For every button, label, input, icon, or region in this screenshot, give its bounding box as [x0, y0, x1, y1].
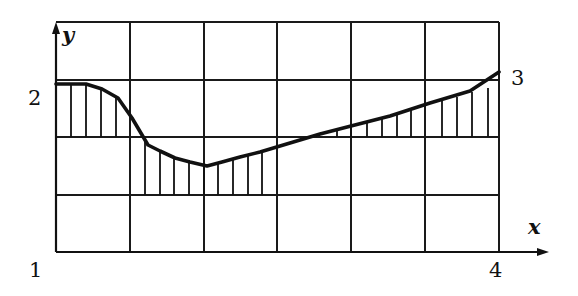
x-axis-label: x	[528, 214, 541, 239]
label-3: 3	[511, 66, 524, 90]
x-axis-arrow-icon	[537, 248, 549, 256]
y-axis-label: y	[62, 22, 74, 47]
graph-diagram	[0, 0, 578, 296]
figure: y x 2 3 1 4	[0, 0, 578, 296]
label-1: 1	[29, 258, 42, 282]
y-axis-arrow-icon	[52, 22, 60, 34]
grid	[56, 22, 499, 252]
label-4: 4	[489, 258, 502, 282]
label-2: 2	[28, 86, 41, 110]
